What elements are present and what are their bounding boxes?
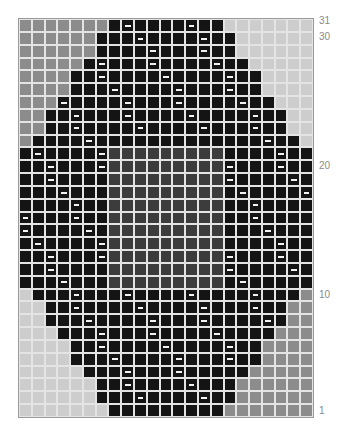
stitch-cell bbox=[198, 199, 211, 212]
dash-stitch-icon bbox=[45, 250, 58, 263]
stitch-cell bbox=[32, 173, 45, 186]
stitch-cell bbox=[236, 404, 249, 417]
stitch-cell bbox=[287, 353, 300, 366]
stitch-cell bbox=[172, 70, 185, 83]
stitch-cell bbox=[147, 32, 160, 45]
stitch-cell bbox=[211, 289, 224, 302]
stitch-cell bbox=[211, 147, 224, 160]
stitch-cell bbox=[224, 147, 237, 160]
stitch-cell bbox=[57, 199, 70, 212]
stitch-cell bbox=[262, 237, 275, 250]
stitch-cell bbox=[172, 314, 185, 327]
stitch-cell bbox=[108, 58, 121, 71]
chart-row-27 bbox=[19, 70, 313, 83]
stitch-cell bbox=[172, 263, 185, 276]
stitch-cell bbox=[19, 314, 32, 327]
stitch-cell bbox=[83, 122, 96, 135]
stitch-cell bbox=[147, 276, 160, 289]
stitch-cell bbox=[96, 276, 109, 289]
chart-row-5 bbox=[19, 353, 313, 366]
stitch-cell bbox=[70, 70, 83, 83]
dash-stitch-icon bbox=[236, 96, 249, 109]
stitch-cell bbox=[147, 160, 160, 173]
stitch-cell bbox=[211, 186, 224, 199]
stitch-cell bbox=[236, 122, 249, 135]
stitch-cell bbox=[70, 276, 83, 289]
chart-row-8 bbox=[19, 314, 313, 327]
stitch-cell bbox=[70, 96, 83, 109]
stitch-cell bbox=[96, 122, 109, 135]
dash-stitch-icon bbox=[249, 109, 262, 122]
stitch-cell bbox=[32, 301, 45, 314]
stitch-cell bbox=[185, 263, 198, 276]
stitch-cell bbox=[96, 96, 109, 109]
stitch-cell bbox=[249, 224, 262, 237]
stitch-cell bbox=[211, 160, 224, 173]
stitch-cell bbox=[198, 186, 211, 199]
stitch-cell bbox=[236, 263, 249, 276]
stitch-cell bbox=[147, 135, 160, 148]
stitch-cell bbox=[32, 250, 45, 263]
stitch-cell bbox=[185, 45, 198, 58]
stitch-cell bbox=[160, 147, 173, 160]
dash-stitch-icon bbox=[224, 173, 237, 186]
stitch-cell bbox=[185, 135, 198, 148]
stitch-cell bbox=[172, 212, 185, 225]
stitch-cell bbox=[172, 340, 185, 353]
dash-stitch-icon bbox=[198, 301, 211, 314]
stitch-cell bbox=[147, 378, 160, 391]
stitch-cell bbox=[134, 83, 147, 96]
stitch-cell bbox=[249, 70, 262, 83]
stitch-cell bbox=[249, 276, 262, 289]
dash-stitch-icon bbox=[172, 96, 185, 109]
stitch-cell bbox=[134, 378, 147, 391]
stitch-cell bbox=[211, 19, 224, 32]
stitch-cell bbox=[45, 96, 58, 109]
stitch-cell bbox=[57, 160, 70, 173]
stitch-cell bbox=[249, 83, 262, 96]
stitch-cell bbox=[275, 109, 288, 122]
stitch-cell bbox=[32, 391, 45, 404]
dash-stitch-icon bbox=[172, 366, 185, 379]
stitch-cell bbox=[262, 109, 275, 122]
stitch-cell bbox=[121, 301, 134, 314]
stitch-cell bbox=[108, 366, 121, 379]
stitch-cell bbox=[147, 353, 160, 366]
stitch-cell bbox=[236, 83, 249, 96]
dash-stitch-icon bbox=[134, 391, 147, 404]
dash-stitch-icon bbox=[83, 224, 96, 237]
stitch-cell bbox=[300, 122, 313, 135]
stitch-cell bbox=[185, 58, 198, 71]
row-label-10: 10 bbox=[319, 290, 330, 300]
stitch-cell bbox=[160, 353, 173, 366]
stitch-cell bbox=[185, 173, 198, 186]
chart-row-19 bbox=[19, 173, 313, 186]
stitch-cell bbox=[224, 212, 237, 225]
stitch-cell bbox=[262, 173, 275, 186]
stitch-cell bbox=[108, 173, 121, 186]
stitch-cell bbox=[300, 263, 313, 276]
stitch-cell bbox=[121, 353, 134, 366]
stitch-cell bbox=[249, 135, 262, 148]
stitch-cell bbox=[172, 109, 185, 122]
stitch-cell bbox=[19, 378, 32, 391]
stitch-cell bbox=[32, 340, 45, 353]
stitch-cell bbox=[19, 32, 32, 45]
stitch-cell bbox=[96, 173, 109, 186]
dash-stitch-icon bbox=[70, 109, 83, 122]
stitch-cell bbox=[134, 45, 147, 58]
stitch-cell bbox=[57, 19, 70, 32]
stitch-cell bbox=[300, 250, 313, 263]
stitch-cell bbox=[147, 83, 160, 96]
stitch-cell bbox=[287, 135, 300, 148]
stitch-cell bbox=[108, 45, 121, 58]
stitch-cell bbox=[70, 45, 83, 58]
stitch-cell bbox=[57, 366, 70, 379]
stitch-cell bbox=[185, 160, 198, 173]
stitch-cell bbox=[172, 19, 185, 32]
stitch-cell bbox=[83, 378, 96, 391]
stitch-cell bbox=[121, 391, 134, 404]
stitch-cell bbox=[57, 314, 70, 327]
stitch-cell bbox=[275, 83, 288, 96]
stitch-cell bbox=[32, 186, 45, 199]
